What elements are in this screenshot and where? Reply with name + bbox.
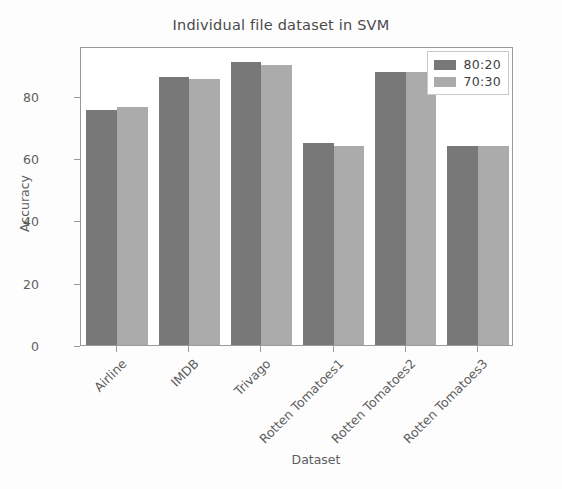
bar xyxy=(334,146,365,345)
y-tick-label: 20 xyxy=(0,276,39,291)
legend-swatch-icon xyxy=(434,60,456,70)
bar xyxy=(261,65,292,345)
y-tick-label: 40 xyxy=(0,214,39,229)
y-tick-mark xyxy=(74,159,80,160)
chart-legend: 80:2070:30 xyxy=(427,51,509,95)
x-tick-mark xyxy=(405,346,406,352)
x-tick-mark xyxy=(188,346,189,352)
y-tick-mark xyxy=(74,221,80,222)
y-tick-label: 60 xyxy=(0,152,39,167)
x-axis-label: Dataset xyxy=(0,452,562,467)
x-tick-label: IMDB xyxy=(168,356,202,390)
chart-title: Individual file dataset in SVM xyxy=(0,17,562,33)
y-tick-mark xyxy=(74,284,80,285)
bar xyxy=(231,62,262,345)
legend-label: 80:20 xyxy=(463,57,501,72)
plot-area: 80:2070:30 xyxy=(80,47,513,346)
bar xyxy=(117,107,148,345)
bar xyxy=(375,72,406,345)
bar xyxy=(447,146,478,345)
bar xyxy=(86,110,117,345)
y-tick-mark xyxy=(74,97,80,98)
y-axis-label: Accuracy xyxy=(17,114,32,294)
legend-item: 80:20 xyxy=(434,56,501,73)
bar xyxy=(189,79,220,345)
bar-group xyxy=(86,48,147,345)
legend-label: 70:30 xyxy=(463,74,501,89)
x-tick-mark xyxy=(477,346,478,352)
chart-figure: Individual file dataset in SVM Accuracy … xyxy=(0,0,562,489)
x-tick-mark xyxy=(260,346,261,352)
bar xyxy=(303,143,334,345)
bar xyxy=(406,72,437,345)
legend-swatch-icon xyxy=(434,77,456,87)
bar xyxy=(478,146,509,345)
legend-item: 70:30 xyxy=(434,73,501,90)
y-tick-mark xyxy=(74,346,80,347)
bar-group xyxy=(159,48,220,345)
x-tick-label: Airline xyxy=(91,356,130,395)
x-tick-mark xyxy=(116,346,117,352)
bar-group xyxy=(231,48,292,345)
y-tick-label: 80 xyxy=(0,89,39,104)
y-tick-label: 0 xyxy=(0,339,39,354)
x-tick-mark xyxy=(333,346,334,352)
bar xyxy=(159,77,190,345)
x-tick-label: Trivago xyxy=(232,356,274,398)
bar-group xyxy=(303,48,364,345)
